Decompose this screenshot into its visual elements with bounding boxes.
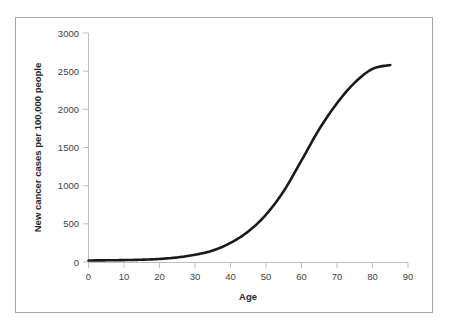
x-axis-title: Age	[239, 291, 257, 302]
y-tick-label: 0	[74, 257, 79, 268]
y-tick-label: 1000	[58, 180, 79, 191]
y-axis-tick-labels: 3000 2500 2000 1500 1000 500 0	[58, 28, 79, 268]
x-tick-label: 30	[190, 271, 201, 282]
x-tick-label: 40	[225, 271, 236, 282]
y-tick-label: 1500	[58, 142, 79, 153]
figure-canvas: 3000 2500 2000 1500 1000 500 0 0 10 20	[0, 0, 449, 325]
x-tick-label: 20	[154, 271, 165, 282]
y-tick-label: 2000	[58, 104, 79, 115]
x-tick-label: 60	[296, 271, 307, 282]
y-axis-title: New cancer cases per 100,000 people	[32, 63, 43, 233]
y-tick-label: 2500	[58, 66, 79, 77]
x-tick-label: 90	[403, 271, 414, 282]
x-axis-ticks	[89, 263, 409, 269]
x-tick-label: 70	[332, 271, 343, 282]
x-tick-label: 0	[86, 271, 91, 282]
y-tick-label: 3000	[58, 28, 79, 39]
cancer-incidence-by-age-line-chart: 3000 2500 2000 1500 1000 500 0 0 10 20	[0, 0, 449, 325]
x-tick-label: 80	[367, 271, 378, 282]
y-axis-ticks	[83, 33, 89, 262]
y-tick-label: 500	[63, 218, 79, 229]
cancer-incidence-curve	[89, 65, 391, 260]
x-axis-tick-labels: 0 10 20 30 40 50 60 70 80 90	[86, 271, 413, 282]
x-tick-label: 10	[119, 271, 130, 282]
x-tick-label: 50	[261, 271, 272, 282]
